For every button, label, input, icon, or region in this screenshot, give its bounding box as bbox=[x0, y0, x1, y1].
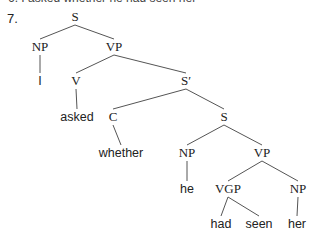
tree-node-category: V bbox=[71, 73, 81, 88]
syntax-tree: SNPVPIVS′askedCSwhetherNPVPheVGPNPhadsee… bbox=[0, 0, 318, 236]
tree-edge bbox=[75, 25, 114, 39]
tree-node-word: he bbox=[180, 182, 194, 196]
tree-edge bbox=[113, 89, 186, 109]
tree-edge bbox=[228, 161, 262, 181]
tree-edge bbox=[187, 125, 224, 145]
tree-edge bbox=[221, 197, 228, 216]
tree-edge bbox=[40, 25, 75, 39]
tree-node-word: I bbox=[38, 74, 41, 88]
tree-node-category: NP bbox=[179, 145, 196, 160]
tree-edge bbox=[76, 89, 77, 109]
tree-edge bbox=[297, 197, 298, 216]
tree-edge bbox=[186, 89, 224, 109]
tree-node-category: VP bbox=[106, 39, 123, 54]
tree-node-word: whether bbox=[98, 146, 143, 160]
tree-node-category: NP bbox=[290, 181, 307, 196]
tree-node-category: S bbox=[220, 109, 227, 124]
tree-node-category: S′ bbox=[181, 73, 191, 88]
tree-node-category: VP bbox=[254, 145, 271, 160]
tree-node-category: NP bbox=[32, 39, 49, 54]
tree-node-word: asked bbox=[60, 110, 93, 124]
tree-node-category: VGP bbox=[215, 181, 241, 196]
tree-node-word: had bbox=[211, 217, 232, 231]
tree-edge bbox=[262, 161, 298, 181]
tree-edge bbox=[114, 55, 186, 73]
tree-node-word: seen bbox=[245, 217, 272, 231]
tree-edge bbox=[76, 55, 114, 73]
tree-node-word: her bbox=[288, 217, 306, 231]
tree-edge bbox=[113, 125, 121, 145]
tree-node-category: S bbox=[71, 9, 78, 24]
tree-nodes: SNPVPIVS′askedCSwhetherNPVPheVGPNPhadsee… bbox=[32, 9, 307, 231]
tree-edge bbox=[228, 197, 259, 216]
tree-edge bbox=[224, 125, 262, 145]
tree-node-category: C bbox=[109, 109, 118, 124]
